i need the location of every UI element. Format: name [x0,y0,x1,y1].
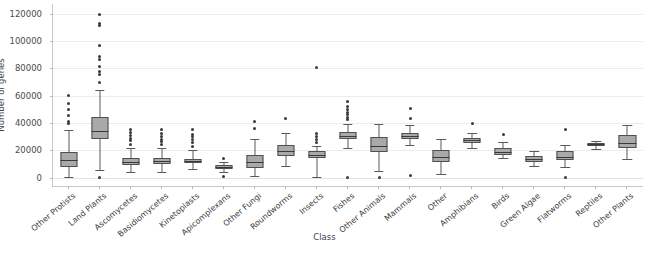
x-tick-label-flatworms: Flatworms [537,192,574,225]
outlier-point [160,143,163,146]
boxplot-amphibians [457,4,488,186]
cap-lower [95,170,104,171]
whisker-lower [441,162,442,174]
whisker-lower [161,164,162,172]
whisker-upper [68,130,69,152]
x-tick-mark [502,186,503,189]
x-tick-mark [161,186,162,189]
median-line [526,159,543,160]
cap-upper [436,139,445,140]
median-line [246,162,263,163]
boxplot-kinetoplasts [177,4,208,186]
median-line [402,136,419,137]
x-tick-mark [378,186,379,189]
cap-upper [64,130,73,131]
cap-upper [219,162,228,163]
outlier-point [346,105,349,108]
median-line [557,157,574,158]
whisker-lower [68,167,69,177]
outlier-point [346,100,349,103]
outlier-point [98,176,101,179]
outlier-point [409,107,412,110]
cap-upper [250,139,259,140]
whisker-upper [99,90,100,117]
whisker-lower [347,139,348,148]
x-tick-mark [130,186,131,189]
median-line [339,136,356,137]
x-tick-label-other: Other [427,192,450,213]
median-line [619,143,636,144]
outlier-point [98,73,101,76]
outlier-point [409,117,412,120]
x-tick-mark [626,186,627,189]
outlier-point [222,157,225,160]
whisker-lower [254,168,255,176]
cap-upper [95,90,104,91]
cap-upper [281,133,290,134]
median-line [184,161,201,162]
box-iqr [619,135,636,149]
box-iqr [370,137,387,153]
outlier-point [98,22,101,25]
cap-lower [530,166,539,167]
outlier-point [191,138,194,141]
whisker-upper [161,148,162,158]
outlier-point [98,81,101,84]
cap-lower [250,176,259,177]
outlier-point [346,116,349,119]
x-tick-mark [99,186,100,189]
outlier-point [160,128,163,131]
y-axis-ticks: 020000400006000080000100000120000 [0,4,48,186]
whisker-lower [379,152,380,170]
outlier-point [315,132,318,135]
outlier-point [502,133,505,136]
outlier-point [67,120,70,123]
boxplot-apicomplexans [208,4,239,186]
median-line [60,160,77,161]
outlier-point [284,117,287,120]
outlier-point [67,108,70,111]
x-tick-mark [285,186,286,189]
y-tick-label: 120000 [10,9,42,18]
median-line [588,144,605,145]
cap-upper [374,124,383,125]
whisker-upper [130,148,131,158]
x-tick-mark [223,186,224,189]
cap-upper [530,151,539,152]
outlier-point [346,113,349,116]
whisker-upper [379,124,380,137]
whisker-upper [285,133,286,145]
boxplot-insects [301,4,332,186]
boxplot-other-fungi [239,4,270,186]
x-tick-mark [471,186,472,189]
median-line [215,167,232,168]
outlier-point [315,138,318,141]
outlier-point [129,137,132,140]
cap-lower [374,171,383,172]
whisker-lower [316,158,317,177]
cap-upper [126,148,135,149]
boxplot-other-plants [612,4,643,186]
outlier-point [564,176,567,179]
median-line [433,157,450,158]
outlier-point [346,111,349,114]
outlier-point [67,114,70,117]
cap-lower [467,148,476,149]
whisker-lower [99,139,100,170]
x-tick-label-insects: Insects [298,192,325,216]
cap-lower [623,159,632,160]
outlier-point [191,133,194,136]
outlier-point [253,127,256,130]
x-axis-label: Class [0,232,649,242]
cap-upper [623,125,632,126]
outlier-point [222,175,225,178]
outlier-point [67,102,70,105]
box-iqr [91,117,108,140]
boxplot-other-protists [53,4,84,186]
x-tick-label-mammals: Mammals [383,192,418,223]
outlier-point [98,13,101,16]
outlier-point [98,70,101,73]
box-iqr [557,151,574,160]
median-line [308,155,325,156]
y-tick-label: 20000 [15,146,42,155]
